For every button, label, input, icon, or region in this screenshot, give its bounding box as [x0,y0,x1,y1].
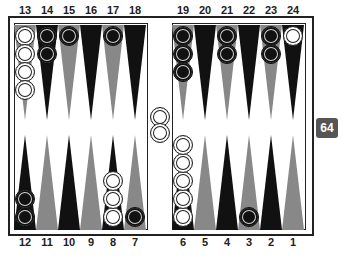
point-18[interactable] [124,25,146,120]
point-5[interactable] [194,135,216,230]
white-checker[interactable] [173,153,193,173]
point-label: 6 [172,236,194,248]
point-10[interactable] [58,135,80,230]
white-checker[interactable] [15,80,35,100]
point-label: 1 [282,236,304,248]
point-label: 24 [282,4,304,16]
black-checker[interactable] [217,26,237,46]
black-checker[interactable] [15,189,35,209]
point-label: 15 [58,4,80,16]
white-checker[interactable] [103,189,123,209]
point-triangle [80,25,102,120]
black-checker[interactable] [37,26,57,46]
point-1[interactable] [282,135,304,230]
point-label: 12 [14,236,36,248]
point-label: 16 [80,4,102,16]
point-label: 9 [80,236,102,248]
white-checker[interactable] [173,189,193,209]
point-label: 7 [124,236,146,248]
point-triangle [282,135,304,230]
point-triangle [194,25,216,120]
black-checker[interactable] [173,62,193,82]
point-triangle [194,135,216,230]
white-checker[interactable] [15,26,35,46]
white-checker[interactable] [173,207,193,227]
point-label: 14 [36,4,58,16]
black-checker[interactable] [15,207,35,227]
black-checker[interactable] [261,44,281,64]
black-checker[interactable] [125,207,145,227]
white-checker[interactable] [103,171,123,191]
point-2[interactable] [260,135,282,230]
point-label: 11 [36,236,58,248]
black-checker[interactable] [173,26,193,46]
point-label: 5 [194,236,216,248]
white-checker[interactable] [103,207,123,227]
point-triangle [260,135,282,230]
point-label: 10 [58,236,80,248]
white-checker[interactable] [173,135,193,155]
point-triangle [238,25,260,120]
point-label: 19 [172,4,194,16]
point-label: 18 [124,4,146,16]
white-checker[interactable] [283,26,303,46]
point-11[interactable] [36,135,58,230]
point-label: 21 [216,4,238,16]
point-label: 2 [260,236,282,248]
point-label: 17 [102,4,124,16]
white-checker[interactable] [15,62,35,82]
black-checker[interactable] [103,26,123,46]
point-label: 23 [260,4,282,16]
point-label: 8 [102,236,124,248]
doubling-cube[interactable]: 64 [316,118,338,138]
point-16[interactable] [80,25,102,120]
point-label: 3 [238,236,260,248]
black-checker[interactable] [239,207,259,227]
point-label: 4 [216,236,238,248]
black-checker[interactable] [37,44,57,64]
point-triangle [36,135,58,230]
point-22[interactable] [238,25,260,120]
point-label: 20 [194,4,216,16]
point-triangle [80,135,102,230]
point-triangle [58,135,80,230]
point-4[interactable] [216,135,238,230]
white-checker[interactable] [15,44,35,64]
black-checker[interactable] [261,26,281,46]
point-label: 22 [238,4,260,16]
board-bar[interactable] [149,18,171,234]
black-checker[interactable] [173,44,193,64]
white-checker[interactable] [173,171,193,191]
point-triangle [124,25,146,120]
point-20[interactable] [194,25,216,120]
backgammon-board [8,16,314,236]
point-label: 13 [14,4,36,16]
black-checker[interactable] [59,26,79,46]
black-checker[interactable] [217,44,237,64]
point-9[interactable] [80,135,102,230]
white-checker-on-bar[interactable] [150,123,170,143]
point-triangle [216,135,238,230]
